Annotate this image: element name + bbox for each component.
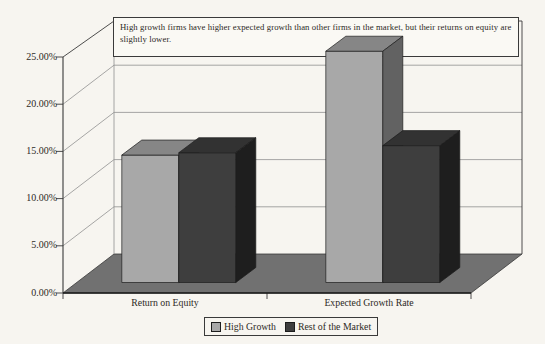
annotation-text: High growth firms have higher expected g…	[120, 22, 511, 44]
legend-item-rest-of-the-market: Rest of the Market	[285, 321, 371, 332]
legend-key-icon	[211, 322, 221, 332]
gridline-left-wall	[63, 160, 114, 199]
legend-key-icon	[285, 322, 295, 332]
chart-area: High growth firms have higher expected g…	[0, 0, 545, 344]
legend-label: Rest of the Market	[298, 321, 371, 332]
y-tick-label: 25.00%	[0, 51, 57, 62]
gridline-left-wall	[63, 112, 114, 151]
y-tick-label: 0.00%	[0, 287, 57, 298]
y-tick-label: 5.00%	[0, 239, 57, 250]
gridline-left-wall	[63, 65, 114, 104]
y-tick-label: 15.00%	[0, 145, 57, 156]
y-tick-label: 20.00%	[0, 98, 57, 109]
legend-item-high-growth: High Growth	[211, 321, 276, 332]
legend: High GrowthRest of the Market	[204, 317, 378, 336]
category-label: Return on Equity	[75, 297, 255, 308]
chart-floor	[63, 254, 522, 293]
y-tick-label: 10.00%	[0, 192, 57, 203]
legend-label: High Growth	[224, 321, 276, 332]
category-label: Expected Growth Rate	[279, 297, 459, 308]
annotation-box: High growth firms have higher expected g…	[113, 17, 519, 57]
gridline-left-wall	[63, 207, 114, 246]
